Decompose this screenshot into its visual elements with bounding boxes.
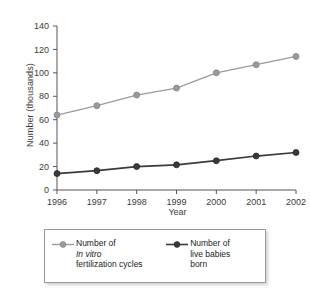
legend-marker-ivf-cycles <box>52 239 74 250</box>
chart-page: Number (thousands) Year 0204060801001201… <box>0 0 310 296</box>
legend-label-line3: fertilization cycles <box>76 259 143 269</box>
data-point <box>213 158 219 164</box>
legend-marker-live-babies <box>166 239 188 250</box>
y-tick-label: 0 <box>44 185 49 195</box>
data-point <box>293 150 299 156</box>
x-tick-label: 1996 <box>47 197 67 207</box>
data-point <box>213 70 219 76</box>
y-tick-label: 40 <box>39 138 49 148</box>
legend-label-ivf-cycles: Number of In vitro fertilization cycles <box>74 238 143 270</box>
data-point <box>293 53 299 59</box>
data-point <box>134 164 140 170</box>
data-point <box>174 162 180 168</box>
y-tick-label: 20 <box>39 162 49 172</box>
legend-label-line1: Number of <box>190 238 230 248</box>
legend-label-line3: born <box>190 259 207 269</box>
chart-legend: Number of In vitro fertilization cycles … <box>44 229 266 283</box>
legend-entry-live-babies[interactable]: Number of live babies born <box>164 230 265 282</box>
x-tick-label: 1999 <box>166 197 186 207</box>
legend-label-live-babies: Number of live babies born <box>188 238 230 270</box>
data-point <box>174 85 180 91</box>
legend-label-line2: In vitro <box>76 249 102 259</box>
data-point <box>253 62 259 68</box>
data-series-layer <box>54 53 299 176</box>
y-tick-label: 140 <box>34 21 49 31</box>
data-point <box>253 153 259 159</box>
data-point <box>94 168 100 174</box>
y-tick-label: 120 <box>34 45 49 55</box>
legend-label-line1: Number of <box>76 238 116 248</box>
series-ivf-cycles <box>54 53 299 118</box>
data-point <box>54 112 60 118</box>
y-tick-label: 100 <box>34 68 49 78</box>
series-live-babies <box>54 150 299 177</box>
x-tick-label: 2000 <box>206 197 226 207</box>
y-axis-ticks: 020406080100120140 <box>34 21 57 195</box>
y-tick-label: 60 <box>39 115 49 125</box>
y-tick-label: 80 <box>39 91 49 101</box>
plot-area: 020406080100120140 199619971998199920002… <box>0 0 310 225</box>
data-point <box>94 103 100 109</box>
data-point <box>134 92 140 98</box>
data-point <box>54 171 60 177</box>
x-tick-label: 2001 <box>246 197 266 207</box>
legend-entry-ivf-cycles[interactable]: Number of In vitro fertilization cycles <box>45 230 164 282</box>
x-tick-label: 1997 <box>87 197 107 207</box>
x-tick-label: 2002 <box>286 197 306 207</box>
line-chart-figure: Number (thousands) Year 0204060801001201… <box>0 0 310 225</box>
legend-label-line2: live babies <box>190 249 230 259</box>
x-tick-label: 1998 <box>127 197 147 207</box>
x-axis-ticks: 1996199719981999200020012002 <box>47 190 306 207</box>
